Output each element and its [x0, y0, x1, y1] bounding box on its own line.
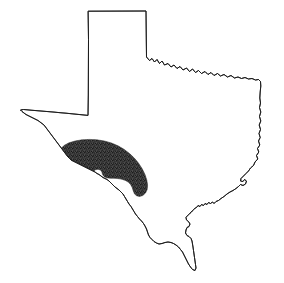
- texas-state-boundary: [21, 11, 261, 271]
- map-canvas: [0, 0, 284, 283]
- texas-outline-map-figure: [0, 0, 284, 283]
